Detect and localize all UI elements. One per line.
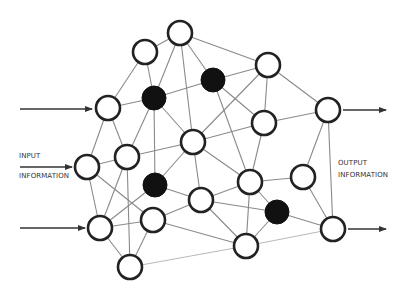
edge-J-U bbox=[127, 157, 130, 267]
node-D-hollow bbox=[256, 53, 280, 77]
node-U-hollow bbox=[118, 255, 142, 279]
node-S-hollow bbox=[321, 217, 345, 241]
output-label-line1: OUTPUT bbox=[338, 160, 367, 167]
node-K-hollow bbox=[75, 155, 99, 179]
node-R-filled bbox=[265, 200, 289, 224]
node-A-hollow bbox=[133, 40, 157, 64]
network-nodes bbox=[75, 21, 345, 279]
edge-U-T bbox=[130, 246, 246, 267]
node-N-hollow bbox=[238, 170, 262, 194]
edge-E-L bbox=[154, 98, 155, 185]
input-label-line2: INFORMATION bbox=[19, 173, 69, 180]
node-F-hollow bbox=[96, 96, 120, 120]
node-H-hollow bbox=[181, 130, 205, 154]
edge-G-S bbox=[328, 110, 333, 229]
node-T-hollow bbox=[234, 234, 258, 258]
node-I-hollow bbox=[252, 111, 276, 135]
output-label-line2: INFORMATION bbox=[338, 172, 388, 179]
neural-network-diagram bbox=[0, 0, 407, 296]
edge-B-D bbox=[180, 33, 268, 65]
node-Q-hollow bbox=[141, 208, 165, 232]
node-G-hollow bbox=[316, 98, 340, 122]
edge-Q-T bbox=[153, 220, 246, 246]
node-C-filled bbox=[201, 68, 225, 92]
input-label-line1: INPUT bbox=[19, 153, 40, 160]
node-O-hollow bbox=[291, 165, 315, 189]
node-P-hollow bbox=[88, 216, 112, 240]
node-B-hollow bbox=[168, 21, 192, 45]
node-J-hollow bbox=[115, 145, 139, 169]
node-M-hollow bbox=[189, 188, 213, 212]
node-E-filled bbox=[142, 86, 166, 110]
node-L-filled bbox=[143, 173, 167, 197]
